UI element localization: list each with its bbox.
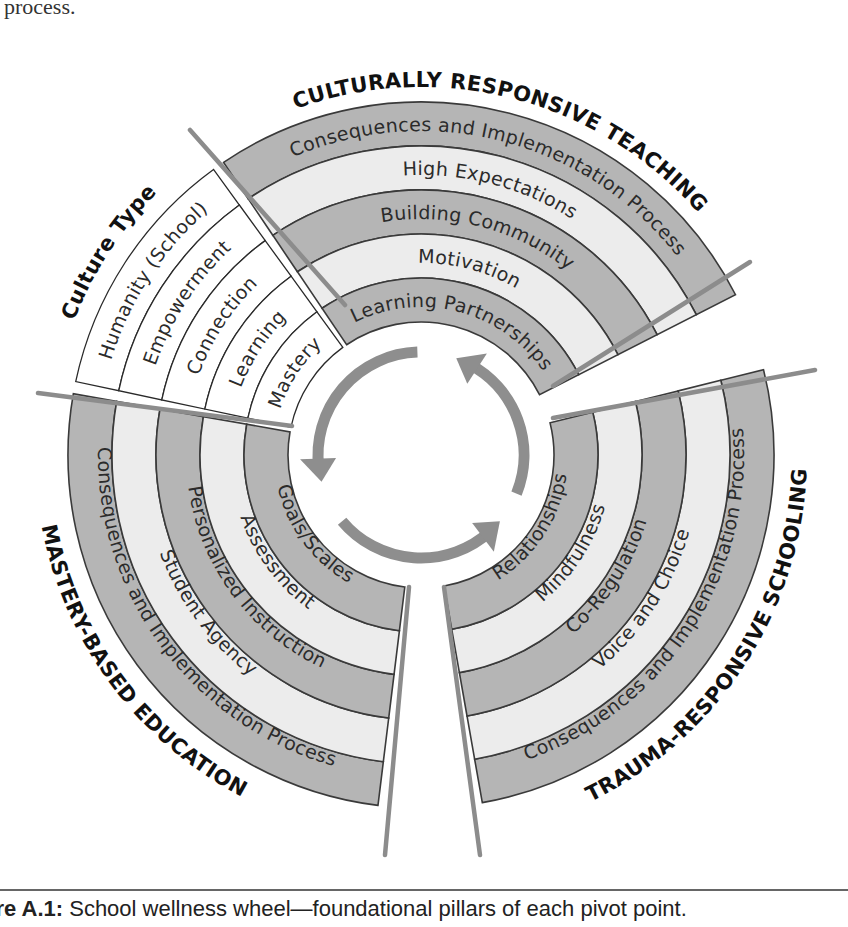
cycle-arrow-arc	[342, 521, 490, 558]
caption-text: School wellness wheel—foundational pilla…	[63, 896, 687, 921]
arrowhead-icon	[300, 458, 336, 482]
school-wellness-wheel: Consequences and Implementation ProcessH…	[0, 0, 848, 880]
caption-label: ure A.1:	[0, 896, 63, 921]
figure-caption: ure A.1: School wellness wheel—foundatio…	[0, 896, 687, 922]
caption-divider	[0, 889, 848, 891]
cycle-arrow-arc	[469, 364, 524, 494]
cycle-arrow-arc	[318, 352, 417, 467]
cycle-arrows-icon	[300, 352, 524, 558]
